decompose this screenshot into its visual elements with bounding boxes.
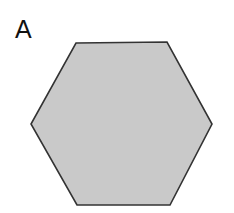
hexagon-figure (0, 0, 234, 213)
hexagon-shape (31, 42, 212, 205)
